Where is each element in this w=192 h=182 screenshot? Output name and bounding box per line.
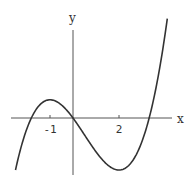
series-line-cubic xyxy=(16,19,168,170)
y-axis-label: y xyxy=(68,11,76,25)
x-axis-label: x xyxy=(177,112,184,126)
chart: x y -12 xyxy=(0,0,192,182)
x-tick-label: -1 xyxy=(43,123,56,136)
x-tick-label: 2 xyxy=(116,123,123,136)
